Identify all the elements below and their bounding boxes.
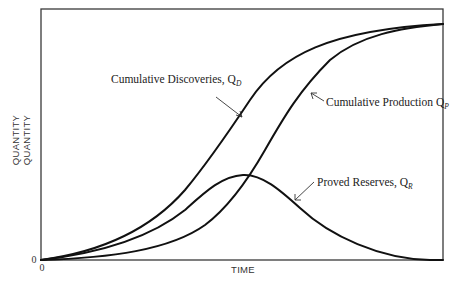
leader-discoveries	[216, 97, 242, 117]
leader-production	[311, 93, 324, 101]
leader-reserves	[295, 182, 314, 200]
y-tick-zero: 0	[32, 254, 37, 265]
chart: Cumulative Discoveries, QD Cumulative Pr…	[0, 0, 456, 283]
label-cumulative-discoveries: Cumulative Discoveries, QD	[111, 73, 242, 88]
y-axis-label-line-2: QUANTITY	[21, 114, 32, 165]
label-proved-reserves: Proved Reserves, QR	[317, 176, 413, 191]
curve-cumulative-discoveries	[41, 24, 443, 260]
label-cumulative-production: Cumulative Production QP	[326, 96, 449, 111]
x-tick-zero: 0	[40, 262, 45, 273]
curve-cumulative-production	[41, 24, 443, 260]
plot-frame	[41, 9, 443, 260]
x-axis-label: TIME	[231, 264, 255, 275]
y-axis-label-line-1: QUANTITY	[10, 114, 21, 165]
